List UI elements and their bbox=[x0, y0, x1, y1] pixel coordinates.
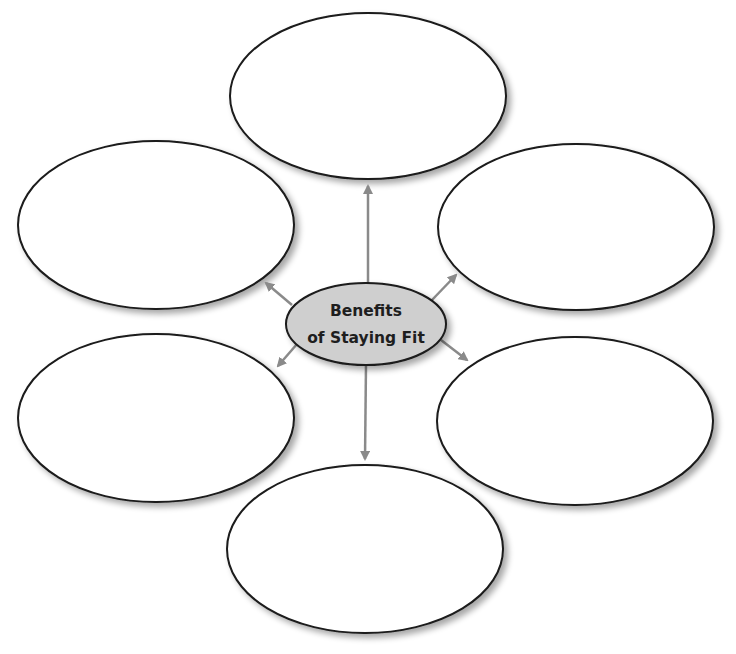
bubble-bottom[interactable] bbox=[227, 465, 503, 633]
bubble-lower-right[interactable] bbox=[437, 337, 713, 505]
bubble-lower-left[interactable] bbox=[18, 334, 294, 502]
concept-web-diagram: Benefits of Staying Fit bbox=[0, 0, 736, 654]
bubble-upper-right[interactable] bbox=[438, 144, 714, 310]
center-title-line1: Benefits bbox=[330, 302, 402, 320]
arrow-down-icon bbox=[365, 364, 366, 459]
arrow-lower-left-icon bbox=[278, 344, 297, 366]
arrow-upper-left-icon bbox=[266, 283, 292, 305]
center-node: Benefits of Staying Fit bbox=[286, 283, 446, 365]
center-title-line2: of Staying Fit bbox=[307, 329, 425, 347]
bubble-upper-left[interactable] bbox=[18, 141, 294, 309]
arrow-upper-right-icon bbox=[432, 275, 456, 300]
arrow-lower-right-icon bbox=[441, 340, 467, 360]
bubble-top[interactable] bbox=[230, 13, 506, 179]
